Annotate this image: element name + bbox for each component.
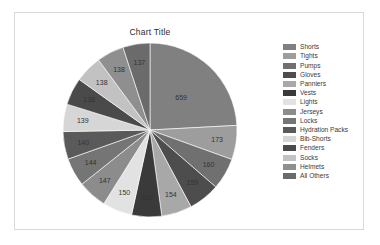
legend-item-label: All Others xyxy=(300,172,329,180)
legend: ShortsTightsPumpsGlovesPanniersVestsLigh… xyxy=(283,43,365,181)
legend-color-swatch xyxy=(283,53,296,59)
legend-item[interactable]: Gloves xyxy=(283,71,365,80)
pie-slice-label: 659 xyxy=(175,94,187,101)
legend-item-label: Vests xyxy=(300,89,316,97)
pie-slice[interactable] xyxy=(150,43,237,130)
legend-item[interactable]: Lights xyxy=(283,98,365,107)
legend-item[interactable]: Fenders xyxy=(283,144,365,153)
legend-item-label: Tights xyxy=(300,52,318,60)
pie-slice-label: 138 xyxy=(113,66,125,73)
legend-item[interactable]: All Others xyxy=(283,172,365,181)
legend-color-swatch xyxy=(283,99,296,105)
pie-slice-label: 138 xyxy=(96,79,108,86)
legend-item[interactable]: Bib-Shorts xyxy=(283,135,365,144)
legend-color-swatch xyxy=(283,72,296,78)
legend-item[interactable]: Panniers xyxy=(283,80,365,89)
legend-color-swatch xyxy=(283,145,296,151)
pie-slice-label: 154 xyxy=(165,191,177,198)
legend-color-swatch xyxy=(283,109,296,115)
pie-slice-label: 139 xyxy=(77,117,89,124)
legend-item-label: Fenders xyxy=(300,144,324,152)
legend-item[interactable]: Socks xyxy=(283,153,365,162)
legend-color-swatch xyxy=(283,118,296,124)
legend-item-label: Bib-Shorts xyxy=(300,135,331,143)
chart-frame: Chart Title 6591731601591541521501471441… xyxy=(14,12,364,230)
pie-slice-label: 160 xyxy=(203,161,215,168)
pie-slice-label: 150 xyxy=(119,189,131,196)
legend-color-swatch xyxy=(283,81,296,87)
pie-slice-label: 144 xyxy=(85,159,97,166)
legend-item-label: Locks xyxy=(300,117,317,125)
pie-slice-label: 159 xyxy=(186,179,198,186)
legend-item-label: Panniers xyxy=(300,80,326,88)
pie-slice-label: 138 xyxy=(83,96,95,103)
legend-item-label: Shorts xyxy=(300,43,319,51)
legend-color-swatch xyxy=(283,136,296,142)
pie-slice-label: 147 xyxy=(99,177,111,184)
legend-color-swatch xyxy=(283,164,296,170)
pie-slice-label: 152 xyxy=(141,194,153,201)
legend-item-label: Gloves xyxy=(300,71,321,79)
pie-slice-label: 173 xyxy=(211,136,223,143)
pie-slice-label: 137 xyxy=(133,59,145,66)
pie-chart: 6591731601591541521501471441401391381381… xyxy=(62,42,238,218)
legend-item-label: Lights xyxy=(300,98,318,106)
legend-item[interactable]: Vests xyxy=(283,89,365,98)
legend-item[interactable]: Jerseys xyxy=(283,107,365,116)
plot-area: 6591731601591541521501471441401391381381… xyxy=(21,35,279,225)
pie-slice-label: 140 xyxy=(77,139,89,146)
legend-color-swatch xyxy=(283,90,296,96)
legend-item[interactable]: Hydration Packs xyxy=(283,126,365,135)
legend-item[interactable]: Tights xyxy=(283,52,365,61)
pie-slice-group xyxy=(63,43,237,217)
legend-item[interactable]: Helmets xyxy=(283,162,365,171)
legend-color-swatch xyxy=(283,44,296,50)
legend-item-label: Helmets xyxy=(300,163,324,171)
legend-item-label: Hydration Packs xyxy=(300,126,348,134)
legend-item-label: Socks xyxy=(300,154,318,162)
legend-color-swatch xyxy=(283,127,296,133)
legend-item[interactable]: Shorts xyxy=(283,43,365,52)
legend-color-swatch xyxy=(283,155,296,161)
pie-svg: 6591731601591541521501471441401391381381… xyxy=(62,42,238,218)
legend-item[interactable]: Pumps xyxy=(283,61,365,70)
legend-item[interactable]: Locks xyxy=(283,117,365,126)
legend-item-label: Pumps xyxy=(300,62,321,70)
legend-color-swatch xyxy=(283,173,296,179)
legend-item-label: Jerseys xyxy=(300,108,323,116)
legend-color-swatch xyxy=(283,63,296,69)
